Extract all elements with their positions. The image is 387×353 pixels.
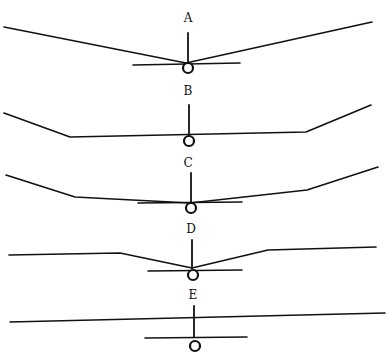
aircraft-front-view-b: B [4, 84, 371, 146]
fuselage-circle [184, 136, 194, 146]
wing-line [10, 313, 385, 322]
horizontal-stabilizer [145, 337, 247, 338]
view-label: B [184, 84, 193, 98]
view-label: C [183, 156, 192, 170]
wing-dihedral-diagram: ABCDE [0, 0, 387, 353]
wing-line [6, 167, 378, 203]
wing-line [4, 105, 371, 137]
aircraft-front-view-a: A [4, 11, 372, 73]
view-label: E [189, 288, 198, 302]
fuselage-circle [190, 341, 200, 351]
fuselage-circle [186, 203, 196, 213]
aircraft-front-view-c: C [6, 156, 378, 213]
aircraft-front-view-d: D [9, 222, 376, 280]
fuselage-circle [188, 270, 198, 280]
view-label: D [186, 222, 196, 236]
fuselage-circle [183, 63, 193, 73]
view-label: A [183, 11, 193, 25]
aircraft-front-view-e: E [10, 288, 385, 351]
